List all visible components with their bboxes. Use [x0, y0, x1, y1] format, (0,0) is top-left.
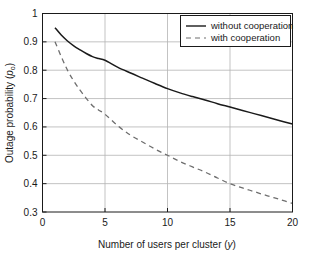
x-tick-label: 5 [102, 217, 108, 228]
y-tick-label: 0.4 [24, 178, 38, 189]
x-tick-label: 15 [224, 217, 236, 228]
chart-legend: without cooperation with cooperation [181, 16, 294, 47]
legend-label-1: with cooperation [210, 32, 280, 43]
y-tick-label: 0.7 [24, 93, 38, 104]
x-tick-label: 10 [162, 217, 174, 228]
outage-probability-line-chart: 05101520 0.30.40.50.60.70.80.91 Number o… [0, 0, 311, 261]
y-tick-label: 0.6 [24, 121, 38, 132]
x-tick-label: 0 [40, 217, 46, 228]
y-axis-title: Outage probability (po) [4, 63, 16, 163]
y-tick-label: 0.3 [24, 207, 38, 218]
y-tick-label: 1 [32, 8, 38, 19]
svg-text:Number of users per cluster (y: Number of users per cluster (y) [98, 239, 236, 250]
y-tick-label: 0.9 [24, 36, 38, 47]
chart-figure: 05101520 0.30.40.50.60.70.80.91 Number o… [0, 0, 311, 261]
svg-text:Outage probability (po): Outage probability (po) [4, 63, 16, 163]
x-tick-label: 20 [287, 217, 299, 228]
legend-label-0: without cooperation [210, 20, 293, 31]
y-tick-label: 0.5 [24, 150, 38, 161]
y-tick-label: 0.8 [24, 65, 38, 76]
x-axis-title: Number of users per cluster (y) [98, 239, 236, 250]
